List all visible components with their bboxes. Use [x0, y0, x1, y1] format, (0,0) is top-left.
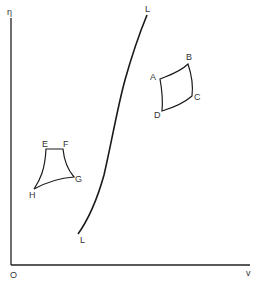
label-E: E — [42, 139, 48, 149]
curve-label-bottom: L — [80, 235, 85, 245]
label-A: A — [150, 72, 156, 82]
label-C: C — [194, 92, 201, 102]
label-H: H — [29, 190, 36, 200]
curve-label-top: L — [145, 4, 150, 14]
curve-L — [78, 15, 147, 234]
cycle-abcd — [160, 64, 192, 111]
x-axis-label: v — [246, 268, 251, 278]
origin-label: O — [10, 270, 17, 280]
label-G: G — [75, 174, 82, 184]
y-axis-label: η — [7, 7, 12, 17]
cycle-efgh — [34, 149, 74, 189]
label-D: D — [154, 110, 161, 120]
diagram-canvas: η O v L L A B C D E F G H — [0, 0, 256, 283]
label-F: F — [63, 139, 69, 149]
label-B: B — [186, 52, 192, 62]
